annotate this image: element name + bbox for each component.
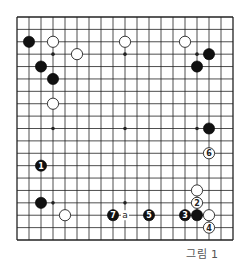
stone-number: 1: [38, 162, 44, 171]
black-stone-1: 1: [35, 160, 46, 171]
white-stone-4: 4: [203, 222, 214, 233]
white-stone-6: 6: [203, 148, 214, 159]
white-stone: [47, 36, 58, 47]
white-stone: [203, 210, 214, 221]
black-stone: [203, 123, 214, 134]
white-stone: [47, 98, 58, 109]
white-stone: [119, 36, 130, 47]
black-stone: [35, 197, 46, 208]
stone-number: 6: [206, 149, 212, 158]
stone-number: 7: [110, 211, 116, 220]
white-stone: [179, 36, 190, 47]
black-stone: [191, 210, 202, 221]
star-point: [195, 52, 199, 56]
black-stone-5: 5: [143, 210, 154, 221]
star-point: [123, 127, 127, 131]
black-stone: [47, 73, 58, 84]
star-point: [51, 201, 55, 205]
black-stone-7: 7: [107, 210, 118, 221]
black-stone: [191, 61, 202, 72]
star-point: [51, 52, 55, 56]
point-labels: a: [121, 210, 129, 220]
black-stone: [35, 61, 46, 72]
white-stone: [71, 49, 82, 60]
stone-number: 5: [146, 211, 152, 220]
point-label-a: a: [122, 210, 128, 220]
go-board: a 1357246: [0, 0, 249, 276]
black-stone-3: 3: [179, 210, 190, 221]
star-point: [51, 127, 55, 131]
black-stone: [23, 36, 34, 47]
black-stone: [203, 49, 214, 60]
white-stone: [59, 210, 70, 221]
stone-number: 3: [182, 211, 188, 220]
white-stone: [191, 185, 202, 196]
star-point: [195, 127, 199, 131]
figure-caption: 그림 1: [186, 245, 219, 261]
star-point: [123, 201, 127, 205]
stone-number: 4: [206, 224, 212, 233]
star-point: [123, 52, 127, 56]
stone-number: 2: [194, 199, 200, 208]
white-stone-2: 2: [191, 197, 202, 208]
